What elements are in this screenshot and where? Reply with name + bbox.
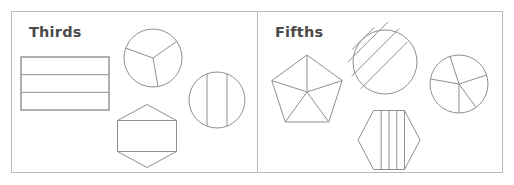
panel-title-thirds: Thirds (29, 24, 82, 40)
panel-fifths: Fifths (257, 11, 503, 173)
fraction-shapes-figure: Thirds Fifths (0, 0, 514, 185)
panel-title-fifths: Fifths (275, 24, 323, 40)
panel-thirds: Thirds (11, 11, 257, 173)
